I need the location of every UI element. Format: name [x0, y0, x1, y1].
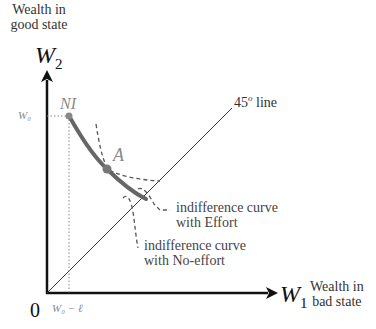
y-axis-title-line1: Wealth in	[4, 2, 74, 17]
point-a	[103, 165, 112, 174]
point-ni	[66, 113, 73, 120]
x-axis-title-line1: Wealth in	[310, 279, 364, 294]
y-symbol: W	[35, 42, 55, 68]
label-45-number: 45	[234, 95, 248, 110]
y-axis-title: Wealth in good state	[4, 2, 74, 33]
origin-label: 0	[30, 299, 40, 321]
x-axis-symbol: W1	[280, 281, 308, 311]
label-ni: NI	[60, 95, 76, 113]
x-axis-title-line2: bad state	[310, 294, 364, 309]
y-axis-symbol: W2	[35, 42, 63, 72]
x-axis-title: Wealth in bad state	[310, 279, 364, 310]
label-ic-no-effort: indifference curve with No-effort	[144, 238, 246, 269]
y-subscript: 2	[55, 56, 63, 72]
x-symbol: W	[280, 281, 300, 307]
label-ic-effort: indifference curve with Effort	[176, 200, 278, 231]
y-axis-title-line2: good state	[4, 17, 74, 32]
label-a: A	[113, 146, 124, 166]
x-subscript: 1	[300, 295, 308, 311]
thick-curve	[69, 116, 146, 199]
x-tick-w0-minus-l: W₀ − ℓ	[52, 302, 83, 314]
label-ic-effort-line1: indifference curve	[176, 200, 278, 215]
label-ic-effort-line2: with Effort	[176, 215, 278, 230]
label-45-suffix: line	[253, 95, 278, 110]
label-ic-no-effort-line2: with No-effort	[144, 253, 246, 268]
label-45-line: 45o line	[234, 94, 277, 110]
y-tick-w0: W₀	[18, 109, 31, 121]
label-ic-no-effort-line1: indifference curve	[144, 238, 246, 253]
